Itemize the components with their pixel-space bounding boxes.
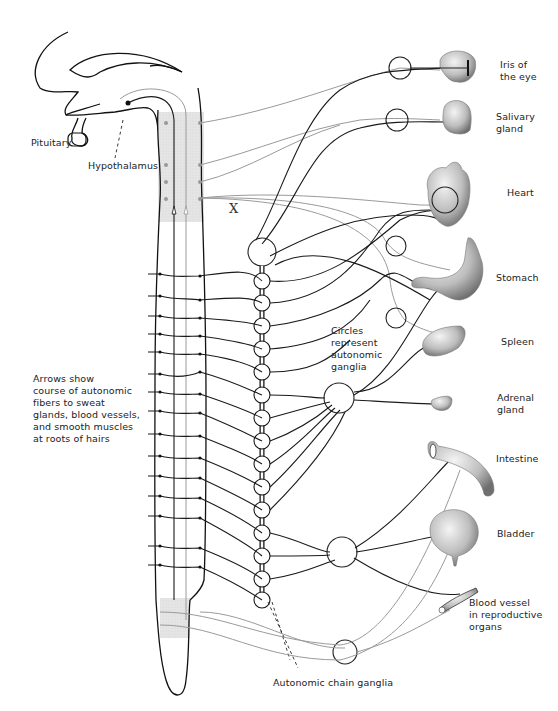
label-x-marker: X: [229, 201, 238, 216]
organ-intestine: [428, 442, 494, 497]
cranial-parasympathetic-fibers: [164, 68, 455, 336]
autonomic-chain-ganglia: [254, 266, 298, 668]
label-organ-salivary: Salivary gland: [496, 111, 535, 135]
label-circles-note: Circles represent autonomic ganglia: [331, 325, 382, 373]
label-pituitary: Pituitary: [31, 137, 72, 149]
label-organ-intestine: Intestine: [496, 453, 538, 465]
label-organ-adrenal: Adrenal gland: [497, 392, 534, 416]
organ-bladder: [430, 510, 478, 566]
organ-stomach: [412, 238, 483, 300]
label-organ-heart: Heart: [507, 187, 534, 199]
organ-salivary-gland: [443, 101, 471, 134]
organ-iris: [410, 51, 476, 82]
organ-heart: [427, 162, 470, 226]
label-organ-spleen: Spleen: [501, 336, 534, 348]
label-organ-stomach: Stomach: [496, 272, 539, 284]
label-organ-blood-vessel: Blood vessel in reproductive organs: [469, 597, 542, 633]
organ-adrenal-gland: [431, 396, 452, 410]
label-organ-bladder: Bladder: [497, 528, 535, 540]
label-hypothalamus: Hypothalamus: [88, 160, 158, 172]
label-chain-ganglia: Autonomic chain ganglia: [273, 677, 393, 689]
organ-spleen: [423, 326, 465, 356]
label-organ-iris: Iris of the eye: [500, 59, 537, 83]
hypothalamus-pointer: [115, 120, 123, 158]
label-arrows-note: Arrows show course of autonomic fibers t…: [33, 373, 140, 445]
